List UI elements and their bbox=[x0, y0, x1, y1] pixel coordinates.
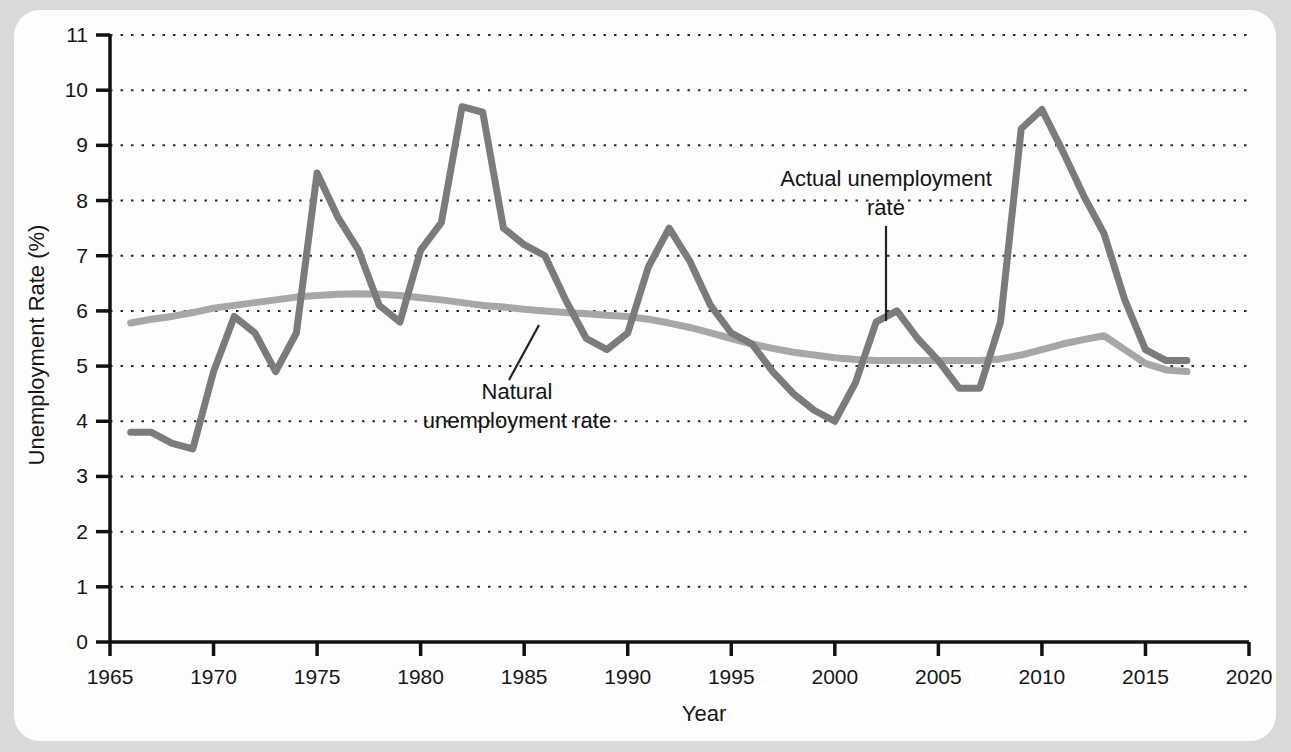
y-tick-label: 3 bbox=[76, 464, 88, 487]
y-axis-title: Unemployment Rate (%) bbox=[24, 225, 49, 466]
y-tick-label: 11 bbox=[66, 23, 88, 46]
x-tick-label: 2015 bbox=[1122, 665, 1169, 688]
natural-annotation-leader bbox=[509, 325, 539, 380]
y-tick-label: 9 bbox=[76, 133, 88, 156]
y-tick-label: 6 bbox=[76, 299, 88, 322]
y-tick-label: 0 bbox=[76, 630, 88, 653]
x-axis-ticks: 1965197019751980198519901995200020052010… bbox=[87, 642, 1273, 688]
x-tick-label: 1995 bbox=[708, 665, 755, 688]
gridlines bbox=[110, 35, 1249, 587]
natural-annotation-line2: unemployment rate bbox=[423, 408, 611, 433]
x-tick-label: 2020 bbox=[1226, 665, 1273, 688]
x-tick-label: 1980 bbox=[397, 665, 444, 688]
actual-rate-annotation: Actual unemployment rate bbox=[780, 166, 992, 321]
x-tick-label: 1985 bbox=[501, 665, 548, 688]
y-tick-label: 2 bbox=[76, 520, 88, 543]
y-axis-ticks: 01234567891011 bbox=[65, 23, 110, 653]
y-tick-label: 10 bbox=[65, 78, 88, 101]
x-axis-title: Year bbox=[682, 701, 726, 726]
x-tick-label: 1975 bbox=[294, 665, 341, 688]
x-tick-label: 1990 bbox=[604, 665, 651, 688]
figure-panel: 01234567891011 1965197019751980198519901… bbox=[14, 10, 1276, 741]
natural-annotation-line1: Natural bbox=[482, 379, 553, 404]
actual-annotation-line2: rate bbox=[867, 195, 905, 220]
y-tick-label: 8 bbox=[76, 189, 88, 212]
x-tick-label: 2005 bbox=[915, 665, 962, 688]
y-tick-label: 7 bbox=[76, 244, 88, 267]
actual-annotation-line1: Actual unemployment bbox=[780, 166, 992, 191]
y-tick-label: 1 bbox=[76, 575, 88, 598]
y-tick-label: 4 bbox=[76, 409, 88, 432]
natural-rate-line bbox=[131, 294, 1187, 372]
natural-rate-annotation: Natural unemployment rate bbox=[423, 325, 611, 433]
x-tick-label: 1970 bbox=[190, 665, 237, 688]
x-tick-label: 1965 bbox=[87, 665, 134, 688]
unemployment-line-chart: 01234567891011 1965197019751980198519901… bbox=[14, 10, 1276, 741]
x-tick-label: 2010 bbox=[1019, 665, 1066, 688]
x-tick-label: 2000 bbox=[811, 665, 858, 688]
y-tick-label: 5 bbox=[76, 354, 88, 377]
actual-rate-line bbox=[131, 107, 1187, 449]
